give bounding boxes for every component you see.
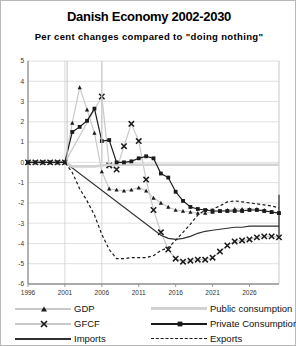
legend-label-imports: Imports	[71, 333, 106, 344]
x-tick-label: 2026	[242, 289, 257, 296]
data-point-marker	[100, 169, 104, 173]
data-point-marker	[181, 199, 185, 203]
data-point-marker	[248, 208, 252, 212]
data-point-marker	[218, 209, 222, 213]
legend-label-exports: Exports	[207, 333, 242, 344]
data-point-marker	[92, 131, 96, 135]
data-point-marker	[152, 156, 156, 160]
data-point-marker	[189, 205, 193, 209]
data-point-marker	[217, 249, 222, 254]
data-point-marker	[159, 172, 163, 176]
series-imports	[28, 162, 279, 239]
legend-swatch-gfcf	[15, 318, 71, 330]
x-tick-label: 2011	[132, 289, 146, 296]
data-point-marker	[122, 160, 126, 164]
data-point-marker	[173, 256, 178, 261]
legend-item-exports: Exports	[151, 331, 242, 346]
legend-swatch-private-consumption	[151, 318, 207, 330]
x-tick-label: 1996	[21, 289, 36, 296]
data-point-marker	[262, 209, 266, 213]
chart-title: Danish Economy 2002-2030	[1, 9, 296, 24]
y-tick-label: 2	[20, 118, 24, 125]
data-point-marker	[255, 208, 259, 212]
y-tick-label: 1	[20, 138, 24, 145]
data-point-marker	[78, 125, 82, 129]
data-point-marker	[225, 209, 229, 213]
y-tick-label: 0	[20, 159, 24, 166]
x-tick-label: 2016	[168, 289, 183, 296]
legend-label-gfcf: GFCF	[71, 318, 100, 329]
series-line	[28, 87, 279, 213]
y-tick-label: -5	[18, 260, 24, 267]
y-tick-label: -4	[18, 240, 24, 247]
plot-area: 543210-1-2-3-4-5-61996200120062011201620…	[1, 49, 296, 299]
y-tick-label: -1	[18, 179, 24, 186]
legend-swatch-imports	[15, 333, 71, 345]
chart-container: Danish Economy 2002-2030 Per cent change…	[0, 0, 296, 346]
legend-item-private-consumption: Private Consumption	[151, 316, 296, 331]
x-tick-label: 2001	[58, 289, 73, 296]
series-gfcf	[25, 94, 281, 265]
data-point-marker	[196, 207, 200, 211]
data-point-marker	[270, 210, 274, 214]
x-marker-icon	[40, 320, 48, 328]
y-tick-label: -6	[18, 280, 24, 287]
legend-item-public-consumption: Public consumption	[151, 301, 292, 316]
data-point-marker	[70, 130, 74, 134]
line-chart-svg: 543210-1-2-3-4-5-61996200120062011201620…	[1, 49, 296, 299]
series-line	[28, 96, 279, 261]
legend-label-gdp: GDP	[71, 303, 95, 314]
data-point-marker	[93, 107, 97, 111]
y-tick-label: -3	[18, 220, 24, 227]
data-point-marker	[240, 209, 244, 213]
triangle-marker-icon	[40, 305, 48, 313]
data-point-marker	[107, 138, 111, 142]
legend-swatch-gdp	[15, 303, 71, 315]
legend-label-public-consumption: Public consumption	[207, 303, 292, 314]
y-tick-label: 5	[20, 57, 24, 64]
data-point-marker	[70, 121, 74, 125]
legend-item-gdp: GDP	[15, 301, 95, 316]
y-tick-label: 3	[20, 98, 24, 105]
series-gdp	[26, 85, 281, 215]
data-point-marker	[85, 119, 89, 123]
legend-swatch-public-consumption	[151, 303, 207, 315]
data-point-marker	[144, 154, 148, 158]
chart-legend: GDP GFCF Imports Public consumption	[1, 301, 296, 346]
legend-item-gfcf: GFCF	[15, 316, 100, 331]
y-tick-label: 4	[20, 78, 24, 85]
data-point-marker	[115, 160, 119, 164]
data-point-marker	[78, 85, 82, 89]
legend-swatch-exports	[151, 333, 207, 345]
square-marker-icon	[176, 320, 184, 328]
data-point-marker	[137, 156, 141, 160]
data-point-marker	[166, 176, 170, 180]
data-point-marker	[129, 159, 133, 163]
legend-label-private-consumption: Private Consumption	[207, 318, 296, 329]
x-tick-label: 2021	[205, 289, 220, 296]
y-tick-label: -2	[18, 199, 24, 206]
legend-item-imports: Imports	[15, 331, 106, 346]
x-tick-label: 2006	[95, 289, 110, 296]
data-point-marker	[233, 209, 237, 213]
chart-subtitle: Per cent changes compared to "doing noth…	[1, 31, 296, 42]
data-point-marker	[174, 190, 178, 194]
series-line	[28, 162, 279, 239]
data-point-marker	[85, 108, 89, 112]
